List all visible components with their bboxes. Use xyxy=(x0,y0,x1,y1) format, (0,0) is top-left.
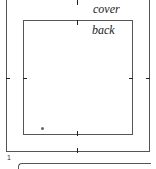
page-number: 1 xyxy=(7,154,11,161)
cover-label: cover xyxy=(93,3,120,15)
marker-dot xyxy=(41,127,44,130)
back-right-tick xyxy=(129,78,133,79)
bottom-edge xyxy=(18,163,151,169)
back-bottom-tick xyxy=(77,131,78,136)
back-left-tick xyxy=(23,78,27,79)
back-label: back xyxy=(92,24,115,36)
back-top-tick xyxy=(77,20,78,25)
back-frame xyxy=(23,20,133,135)
cover-right-tick xyxy=(146,78,150,79)
cover-left-tick xyxy=(6,78,10,79)
cover-top-tick xyxy=(77,0,78,5)
cover-bottom-tick xyxy=(77,148,78,153)
